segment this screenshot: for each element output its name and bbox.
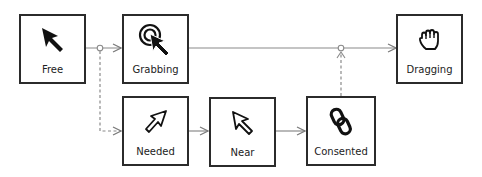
outline-arrow-up-right-icon (124, 104, 187, 140)
edge-free-needed (100, 51, 121, 131)
open-hand-icon (398, 22, 461, 58)
outline-arrow-cursor-icon (211, 105, 274, 141)
node-consented: Consented (306, 96, 376, 166)
node-free: Free (19, 14, 86, 84)
node-near: Near (209, 97, 276, 167)
node-label: Dragging (398, 64, 461, 75)
node-label: Free (21, 64, 84, 75)
junction-consented (338, 45, 344, 51)
node-label: Consented (308, 146, 374, 157)
node-label: Needed (124, 146, 187, 157)
node-label: Near (211, 147, 274, 158)
state-diagram: Free Grabbing Dragging Needed (0, 0, 482, 177)
chain-link-icon (308, 104, 374, 140)
filled-arrow-cursor-icon (21, 22, 84, 58)
node-needed: Needed (122, 96, 189, 166)
junction-free (97, 45, 103, 51)
arrow-cursor-with-target-icon (124, 22, 187, 58)
node-label: Grabbing (124, 64, 187, 75)
node-grabbing: Grabbing (122, 14, 189, 84)
node-dragging: Dragging (396, 14, 463, 84)
